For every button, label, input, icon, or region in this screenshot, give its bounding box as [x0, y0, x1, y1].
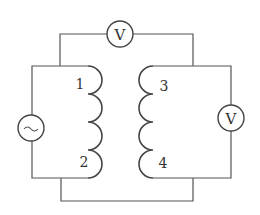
voltmeter-right-label: V: [225, 110, 238, 128]
terminal-3-label: 3: [160, 78, 169, 94]
bottom-connecting-wire: [61, 178, 193, 201]
secondary-coil: [139, 66, 153, 178]
terminal-2-label: 2: [80, 154, 89, 170]
terminal-4-label: 4: [159, 155, 168, 171]
ac-source: [18, 115, 44, 141]
primary-coil: [88, 66, 102, 178]
voltmeter-right: V: [218, 105, 244, 131]
voltmeter-top: V: [107, 21, 133, 47]
circuit-diagram: V V 1 2 3 4: [0, 0, 260, 215]
voltmeter-top-label: V: [114, 26, 127, 44]
terminal-1-label: 1: [76, 76, 85, 92]
